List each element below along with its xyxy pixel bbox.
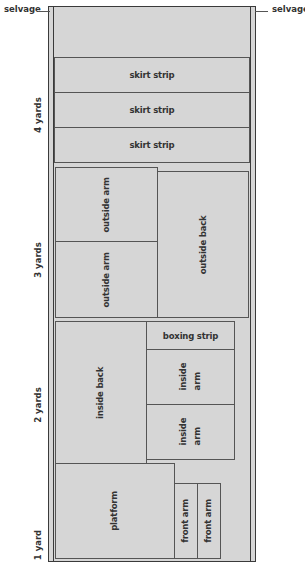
outside-arm-2: outside arm [55,241,158,318]
yard-mark-label: 3 yards [33,242,43,278]
yard-mark-4: 4 yards [28,85,48,145]
inside-arm-1: inside arm [146,349,235,405]
piece-label: outside arm [102,252,112,307]
skirt-strip-3: skirt strip [54,127,250,163]
piece-label: outside arm [102,177,112,232]
piece-label: skirt strip [130,105,175,115]
skirt-strip-1: skirt strip [54,57,250,93]
front-arm-1: front arm [174,483,198,559]
outside-back: outside back [157,171,249,318]
yard-mark-label: 1 yard [33,530,43,560]
piece-label: inside back [96,366,106,418]
piece-label: boxing strip [163,331,218,341]
piece-label: front arm [204,499,214,543]
yard-mark-2: 2 yards [28,375,48,435]
selvage-leader-left [38,11,50,12]
piece-label: platform [110,491,120,531]
inside-back: inside back [55,321,147,464]
piece-label: outside back [198,215,208,274]
piece-label: inside arm [177,418,204,446]
yard-mark-3: 3 yards [28,230,48,290]
yard-mark-1: 1 yard [28,525,48,565]
selvage-right-edge [250,6,256,562]
piece-label: skirt strip [130,70,175,80]
skirt-strip-2: skirt strip [54,92,250,128]
piece-label: inside arm [177,363,204,391]
yard-mark-label: 4 yards [33,97,43,133]
selvage-callout-right: selvage [272,4,305,14]
outside-arm-1: outside arm [55,167,158,242]
selvage-callout-left: selvage [4,4,41,14]
piece-label: front arm [181,499,191,543]
front-arm-2: front arm [197,483,221,559]
platform: platform [55,463,175,559]
boxing-strip: boxing strip [146,321,235,350]
inside-arm-2: inside arm [146,404,235,460]
piece-label: skirt strip [130,140,175,150]
selvage-leader-right [255,11,268,12]
yard-mark-label: 2 yards [33,387,43,423]
